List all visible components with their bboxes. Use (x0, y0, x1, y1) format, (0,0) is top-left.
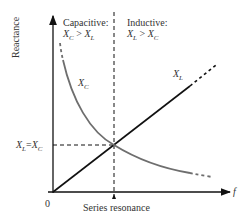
inductive-region-label: Inductive: XL > XC (127, 17, 168, 44)
reactance-diagram (0, 0, 247, 218)
x-axis-label: f (233, 186, 236, 197)
inductive-relation: XL > XC (127, 28, 168, 44)
xc-curve-extension-top (60, 43, 63, 60)
xc-curve-label: XC (78, 77, 89, 93)
inductive-title: Inductive: (127, 17, 168, 28)
resonance-label: Series resonance (83, 202, 150, 213)
xl-line-label: XL (173, 68, 183, 84)
capacitive-title: Capacitive: (63, 17, 109, 28)
capacitive-relation: XC > XL (63, 28, 109, 44)
y-axis-label: Reactance (10, 17, 21, 58)
capacitive-region-label: Capacitive: XC > XL (63, 17, 109, 44)
intersection-label: XL=XC (16, 139, 42, 155)
xl-line-extension (190, 65, 216, 86)
xl-line (53, 86, 190, 192)
xc-curve-extension-bottom (190, 173, 212, 177)
origin-label: 0 (45, 198, 50, 209)
resonance-tick-arrow (112, 194, 116, 199)
